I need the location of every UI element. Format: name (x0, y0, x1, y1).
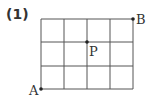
point-b-dot (131, 17, 135, 21)
grid-lines (41, 19, 133, 89)
point-a-label: A (28, 83, 39, 98)
point-b-label: B (136, 12, 146, 27)
point-p-label: P (89, 44, 98, 59)
grid-diagram: ABP (0, 0, 150, 100)
point-a-dot (39, 87, 43, 91)
